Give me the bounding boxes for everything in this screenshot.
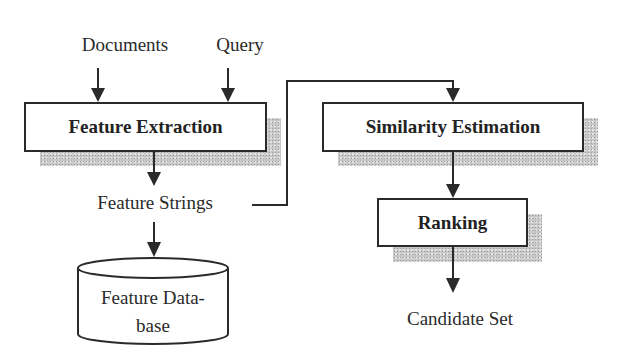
feature-database: Feature Data- base xyxy=(78,284,228,340)
arrowhead-icon xyxy=(147,172,161,186)
arrowhead-icon xyxy=(221,88,235,102)
database-label-line1: Feature Data- xyxy=(78,284,228,312)
arrowhead-icon xyxy=(446,184,460,198)
database-label-line2: base xyxy=(78,312,228,340)
arrowhead-icon xyxy=(446,278,460,293)
arrowhead-icon xyxy=(446,88,460,102)
arrowhead-icon xyxy=(91,88,105,102)
arrow-strings-to-similarity xyxy=(252,81,453,205)
arrowhead-icon xyxy=(147,242,161,257)
